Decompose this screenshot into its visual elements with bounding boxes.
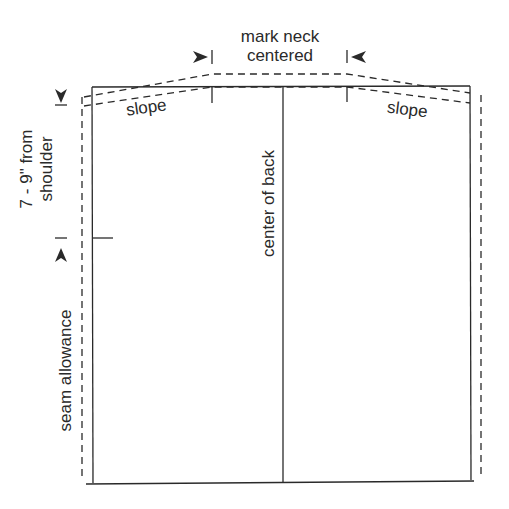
bottom-edge (86, 481, 474, 484)
arrow-up-icon (55, 248, 67, 262)
shoulder-measure-label: 7 - 9" from shoulder (17, 109, 57, 229)
mark-neck-label: mark neck centered (222, 27, 338, 65)
shoulder-measure-line2: shoulder (37, 109, 57, 229)
seam-allowance-top-outer (84, 74, 470, 97)
left-edge (92, 87, 93, 483)
arrow-down-icon (55, 89, 67, 103)
pattern-drawing (0, 0, 509, 509)
mark-neck-line1: mark neck (222, 27, 338, 46)
seam-allowance-label: seam allowance (56, 301, 75, 441)
center-of-back-label: center of back (259, 139, 278, 269)
arrow-right-icon (193, 51, 208, 63)
right-edge (470, 86, 471, 480)
shoulder-measure-line1: 7 - 9" from (17, 109, 37, 229)
mark-neck-line2: centered (222, 46, 338, 65)
arrow-left-icon (351, 51, 366, 63)
